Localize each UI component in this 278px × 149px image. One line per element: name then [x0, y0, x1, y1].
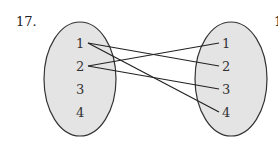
domain-element-4: 4: [76, 105, 84, 120]
codomain-element-2: 2: [222, 59, 230, 74]
codomain-element-4: 4: [222, 105, 230, 120]
domain-element-2: 2: [76, 59, 84, 74]
domain-element-1: 1: [76, 36, 84, 51]
codomain-element-3: 3: [222, 82, 230, 97]
codomain-set-ellipse: [195, 22, 267, 136]
mapping-diagram: 1234 1234: [0, 0, 278, 149]
domain-element-3: 3: [76, 82, 84, 97]
codomain-element-1: 1: [222, 36, 230, 51]
